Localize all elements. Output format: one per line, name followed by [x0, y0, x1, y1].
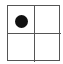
game-board	[7, 5, 60, 61]
board-cell-r1-c1[interactable]	[35, 34, 61, 62]
black-stone-icon	[15, 15, 28, 28]
board-cell-r0-c1[interactable]	[35, 6, 61, 34]
board-cell-r1-c0[interactable]	[8, 34, 35, 62]
board-cell-r0-c0[interactable]	[8, 6, 35, 34]
